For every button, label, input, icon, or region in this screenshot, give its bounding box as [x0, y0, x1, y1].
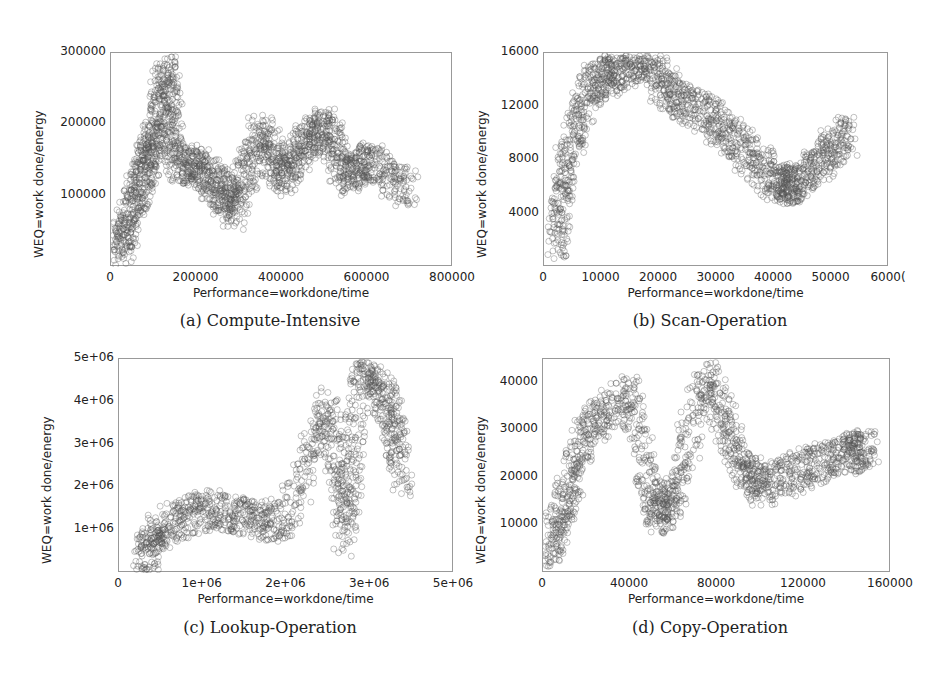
scatter-points: [119, 359, 454, 573]
x-tick-label: 400000: [241, 270, 321, 284]
x-tick-label: 200000: [156, 270, 236, 284]
y-tick-label: 12000: [469, 98, 539, 112]
plot-area-c: [118, 358, 453, 572]
x-tick-label: 0: [70, 270, 150, 284]
scatter-points: [111, 53, 453, 267]
x-tick-label: 120000: [763, 576, 843, 590]
x-tick-label: 80000: [676, 576, 756, 590]
x-tick-label: 160000: [850, 576, 930, 590]
x-tick-label: 3e+06: [329, 576, 409, 590]
y-tick-label: 1e+06: [44, 521, 114, 535]
x-tick-label: 800000: [412, 270, 492, 284]
x-tick-label: 6000(: [848, 270, 928, 284]
caption-c: (c) Lookup-Operation: [130, 618, 410, 637]
x-axis-label: Performance=workdone/time: [542, 592, 890, 606]
x-tick-label: 5e+06: [413, 576, 493, 590]
y-axis-label: WEQ=work done/energy: [475, 110, 489, 258]
y-tick-label: 2e+06: [44, 478, 114, 492]
x-tick-label: 2e+06: [246, 576, 326, 590]
y-tick-label: 100000: [36, 187, 106, 201]
y-axis-label: WEQ=work done/energy: [32, 110, 46, 258]
y-tick-label: 4e+06: [44, 393, 114, 407]
caption-a: (a) Compute-Intensive: [130, 311, 410, 330]
caption-d: (d) Copy-Operation: [570, 618, 850, 637]
plot-area-a: [110, 52, 452, 266]
y-tick-label: 40000: [468, 374, 538, 388]
y-tick-label: 3e+06: [44, 436, 114, 450]
x-tick-label: 0: [78, 576, 158, 590]
plot-area-d: [542, 358, 890, 572]
scatter-points: [544, 53, 889, 267]
y-tick-label: 5e+06: [44, 350, 114, 364]
x-tick-label: 1e+06: [162, 576, 242, 590]
x-tick-label: 600000: [327, 270, 407, 284]
caption-b: (b) Scan-Operation: [570, 311, 850, 330]
y-axis-label: WEQ=work done/energy: [474, 416, 488, 564]
y-axis-label: WEQ=work done/energy: [40, 416, 54, 564]
y-tick-label: 16000: [469, 44, 539, 58]
x-axis-label: Performance=workdone/time: [543, 286, 888, 300]
x-axis-label: Performance=workdone/time: [118, 592, 453, 606]
plot-area-b: [543, 52, 888, 266]
y-tick-label: 200000: [36, 115, 106, 129]
y-tick-label: 300000: [36, 44, 106, 58]
scatter-points: [543, 359, 891, 573]
x-tick-label: 40000: [589, 576, 669, 590]
x-tick-label: 0: [502, 576, 582, 590]
x-axis-label: Performance=workdone/time: [110, 286, 452, 300]
